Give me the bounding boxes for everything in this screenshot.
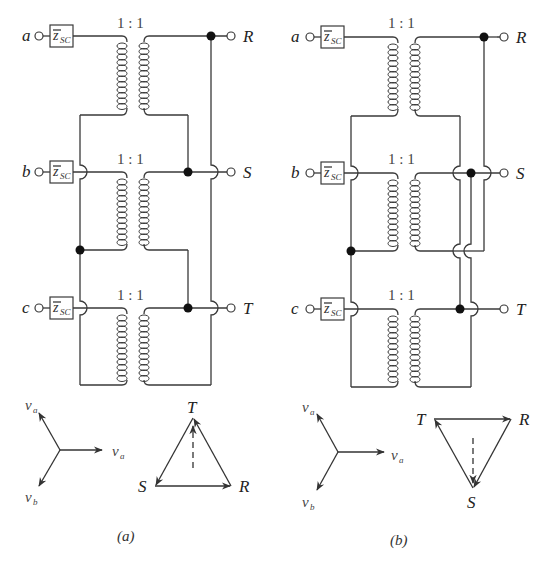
panel-b: 1 : 1 1 : 1 1 : 1: [291, 15, 530, 549]
terminal-icon: [306, 305, 314, 313]
input-a: a z SC: [291, 26, 344, 48]
transformer-a2: 1 : 1: [80, 151, 188, 250]
node-dot: [207, 32, 216, 41]
output-terminals: R S T: [497, 28, 527, 319]
svg-text:c: c: [291, 299, 299, 318]
transformer-b2: 1 : 1: [351, 151, 453, 251]
transformer-b1: 1 : 1: [344, 15, 484, 116]
input-b: b z SC: [291, 162, 344, 184]
ratio-label: 1 : 1: [388, 15, 415, 31]
node-dot: [480, 33, 489, 42]
terminal-icon: [500, 33, 508, 41]
svg-text:T: T: [243, 299, 254, 318]
ratio-label: 1 : 1: [388, 151, 415, 167]
star-phasor-b: v a v a v b: [302, 399, 404, 512]
svg-text:a: a: [399, 455, 404, 465]
svg-text:S: S: [467, 493, 476, 512]
terminal-icon: [306, 33, 314, 41]
terminal-icon: [227, 32, 235, 40]
svg-text:S: S: [138, 477, 147, 496]
transformer-a3: 1 : 1: [80, 287, 211, 385]
ratio-label: 1 : 1: [117, 151, 144, 167]
svg-text:v: v: [112, 443, 119, 459]
terminal-icon: [35, 304, 43, 312]
svg-text:R: R: [238, 477, 250, 496]
node-dot: [184, 168, 193, 177]
svg-text:T: T: [416, 410, 427, 429]
svg-text:SC: SC: [331, 308, 343, 318]
triangle-phasor-a: T S R: [138, 398, 250, 496]
transformer-diagram: 1 : 1 1 : 1 1 : 1: [0, 0, 544, 562]
svg-text:a: a: [22, 26, 31, 45]
ratio-label: 1 : 1: [388, 287, 415, 303]
svg-text:R: R: [518, 410, 530, 429]
svg-text:a: a: [310, 407, 315, 417]
input-c: c z SC: [291, 298, 344, 320]
svg-text:v: v: [302, 399, 309, 415]
terminal-icon: [227, 304, 235, 312]
input-b: b z SC: [22, 161, 73, 183]
svg-text:SC: SC: [60, 35, 72, 45]
svg-text:v: v: [302, 494, 309, 510]
panel-a: 1 : 1 1 : 1 1 : 1: [22, 15, 254, 545]
svg-text:b: b: [33, 497, 38, 507]
svg-text:a: a: [291, 27, 300, 46]
svg-text:b: b: [291, 163, 300, 182]
node-dot: [347, 247, 356, 256]
svg-text:a: a: [33, 405, 38, 415]
svg-text:v: v: [25, 397, 32, 413]
triangle-phasor-b: T R S: [416, 410, 530, 512]
ratio-label: 1 : 1: [117, 287, 144, 303]
transformer-b3: 1 : 1: [351, 287, 471, 387]
svg-text:SC: SC: [331, 36, 343, 46]
svg-text:S: S: [243, 163, 252, 182]
ratio-label: 1 : 1: [117, 15, 144, 31]
svg-text:SC: SC: [331, 172, 343, 182]
terminal-icon: [35, 168, 43, 176]
svg-text:SC: SC: [60, 171, 72, 181]
transformer-a1: 1 : 1: [73, 15, 211, 115]
node-dot: [467, 169, 476, 178]
svg-text:c: c: [22, 298, 30, 317]
svg-text:T: T: [187, 398, 198, 417]
node-dot: [456, 305, 465, 314]
input-a: a z SC: [22, 25, 73, 47]
caption-a: (a): [117, 528, 135, 545]
caption-b: (b): [390, 532, 408, 549]
input-c: c z SC: [22, 297, 73, 319]
svg-text:v: v: [391, 447, 398, 463]
node-dot: [184, 304, 193, 313]
svg-text:S: S: [516, 164, 525, 183]
svg-text:R: R: [242, 27, 254, 46]
output-terminals: R S T: [224, 27, 254, 318]
svg-text:v: v: [25, 489, 32, 505]
terminal-icon: [227, 168, 235, 176]
terminal-icon: [306, 169, 314, 177]
node-dot: [76, 246, 85, 255]
svg-text:SC: SC: [60, 307, 72, 317]
svg-text:a: a: [120, 451, 125, 461]
terminal-icon: [500, 305, 508, 313]
terminal-icon: [35, 32, 43, 40]
svg-text:b: b: [310, 502, 315, 512]
svg-text:b: b: [22, 162, 31, 181]
star-phasor-a: v a v a v b: [25, 397, 125, 507]
terminal-icon: [500, 169, 508, 177]
svg-text:T: T: [516, 300, 527, 319]
svg-text:R: R: [515, 28, 527, 47]
